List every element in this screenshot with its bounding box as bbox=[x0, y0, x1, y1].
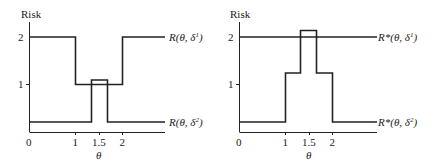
right-x-axis-label: θ bbox=[306, 149, 312, 161]
left-series-label-delta1: R(θ, δ1) bbox=[168, 31, 203, 44]
right-ytick-label-2: 2 bbox=[228, 31, 234, 43]
right-xtick-label-1-5: 1.5 bbox=[302, 136, 316, 148]
left-series-label-delta2: R(θ, δ2) bbox=[168, 116, 203, 129]
right-series-label-delta2: R*(θ, δ2) bbox=[377, 116, 417, 129]
risk-charts: Risk 1 2 0 1 1.5 2 θ R(θ, δ1) R(θ, δ2) R… bbox=[0, 0, 437, 166]
left-ytick-label-1: 1 bbox=[18, 78, 24, 90]
left-x-axis-label: θ bbox=[96, 149, 102, 161]
left-series-delta2 bbox=[30, 80, 166, 122]
left-ytick-label-2: 2 bbox=[18, 31, 24, 43]
left-xtick-label-0: 0 bbox=[26, 136, 32, 148]
left-series-delta1 bbox=[30, 37, 166, 85]
right-xtick-label-1: 1 bbox=[283, 136, 289, 148]
right-xtick-label-0: 0 bbox=[236, 136, 242, 148]
right-y-axis-label: Risk bbox=[230, 8, 251, 20]
left-chart: Risk 1 2 0 1 1.5 2 θ R(θ, δ1) R(θ, δ2) bbox=[18, 8, 203, 161]
left-xtick-label-2: 2 bbox=[120, 136, 126, 148]
right-series-label-delta1: R*(θ, δ1) bbox=[377, 31, 417, 44]
left-y-axis-label: Risk bbox=[21, 8, 42, 20]
right-xtick-label-2: 2 bbox=[330, 136, 336, 148]
left-xtick-label-1-5: 1.5 bbox=[92, 136, 106, 148]
left-xtick-label-1: 1 bbox=[73, 136, 79, 148]
right-chart: Risk 1 2 0 1 1.5 2 θ R*(θ, δ1) R*(θ, δ2) bbox=[228, 8, 417, 161]
right-ytick-label-1: 1 bbox=[228, 78, 234, 90]
right-series-delta2 bbox=[240, 31, 378, 123]
